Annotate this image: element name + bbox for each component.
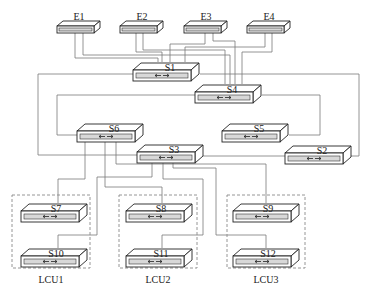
node-label: S4 <box>227 84 238 95</box>
network-diagram: LCU1 LCU2 LCU3 E1 E2 E3 E4 S1 S4 S6 S5 S… <box>0 0 368 293</box>
node-label: S8 <box>156 203 167 214</box>
lcu3-label: LCU3 <box>254 274 279 285</box>
node-label: S5 <box>254 123 265 134</box>
endpoint-e1: E1 <box>57 11 100 33</box>
switch-icon <box>57 21 100 33</box>
node-label: S2 <box>317 145 328 156</box>
node-label: S6 <box>109 123 120 134</box>
node-label: S11 <box>153 248 168 259</box>
switch-s5: S5 <box>222 123 288 142</box>
edge-e1-s1 <box>75 33 158 62</box>
node-label: S3 <box>169 144 180 155</box>
edge-s6-s7 <box>58 142 85 203</box>
edge-s1-s3 <box>38 74 137 155</box>
lcu1-label: LCU1 <box>39 274 64 285</box>
node-label: E2 <box>136 11 147 22</box>
node-label: E1 <box>73 11 84 22</box>
edge-e3-s4 <box>213 33 235 84</box>
switch-s7: S7 <box>21 203 87 222</box>
switch-s3: S3 <box>137 144 203 163</box>
switch-icon <box>184 21 227 33</box>
switch-s6: S6 <box>77 123 143 142</box>
node-label: S12 <box>260 248 276 259</box>
node-label: S7 <box>51 203 62 214</box>
switch-s8: S8 <box>126 203 192 222</box>
switch-s10: S10 <box>21 248 87 267</box>
endpoint-e2: E2 <box>120 11 163 33</box>
node-label: S1 <box>165 62 176 73</box>
node-label: S10 <box>48 248 64 259</box>
node-label: E3 <box>200 11 211 22</box>
edge-e3-s1 <box>170 33 205 62</box>
switch-s9: S9 <box>233 203 299 222</box>
endpoint-e3: E3 <box>184 11 227 33</box>
switch-s2: S2 <box>285 145 351 164</box>
switch-icon <box>247 21 290 33</box>
switch-s1: S1 <box>133 62 199 81</box>
edge-e4-s4 <box>242 33 272 84</box>
endpoint-e4: E4 <box>247 11 290 33</box>
lcu2-label: LCU2 <box>146 274 171 285</box>
switch-icon <box>120 21 163 33</box>
switch-s11: S11 <box>126 248 192 267</box>
switch-s4: S4 <box>195 84 261 103</box>
switch-s12: S12 <box>233 248 299 267</box>
node-label: E4 <box>263 11 274 22</box>
node-label: S9 <box>263 203 274 214</box>
